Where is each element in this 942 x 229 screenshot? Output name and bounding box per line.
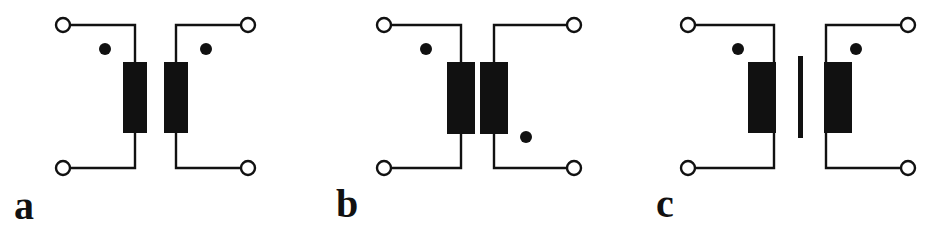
primary-bottom-lead [70,133,135,168]
terminal-secondary-bottom[interactable] [567,161,581,175]
panel-label-c: c [656,184,674,224]
panel-label-a: a [14,186,34,226]
secondary-bottom-lead [176,133,241,168]
polarity-dot-primary [732,43,744,55]
secondary-winding [480,62,508,134]
terminal-primary-top[interactable] [56,18,70,32]
panel-c: c [628,0,942,229]
primary-winding [123,62,147,133]
primary-bottom-lead [695,133,774,168]
primary-top-lead [695,25,774,62]
primary-top-lead [70,25,135,62]
secondary-winding [164,62,188,133]
transformer-symbols-figure: a b [0,0,942,229]
polarity-dot-primary [99,43,111,55]
polarity-dot-secondary [200,43,212,55]
core-bar [798,56,803,138]
panel-c-schematic [628,0,942,229]
primary-bottom-lead [391,134,461,168]
terminal-primary-top[interactable] [681,18,695,32]
secondary-winding [824,62,852,133]
secondary-top-lead [494,25,567,62]
secondary-bottom-lead [826,133,901,168]
terminal-primary-bottom[interactable] [56,161,70,175]
primary-winding [748,62,776,133]
primary-winding [447,62,475,134]
polarity-dot-secondary [850,43,862,55]
secondary-top-lead [176,25,241,62]
terminal-primary-bottom[interactable] [681,161,695,175]
terminal-secondary-top[interactable] [567,18,581,32]
terminal-primary-top[interactable] [377,18,391,32]
polarity-dot-secondary [520,131,532,143]
panel-label-b: b [336,184,358,224]
terminal-secondary-top[interactable] [241,18,255,32]
panel-a-schematic [0,0,314,229]
panel-b: b [314,0,628,229]
terminal-secondary-bottom[interactable] [901,161,915,175]
terminal-secondary-bottom[interactable] [241,161,255,175]
terminal-primary-bottom[interactable] [377,161,391,175]
secondary-top-lead [826,25,901,62]
panel-a: a [0,0,314,229]
panel-b-schematic [314,0,628,229]
polarity-dot-primary [420,43,432,55]
terminal-secondary-top[interactable] [901,18,915,32]
